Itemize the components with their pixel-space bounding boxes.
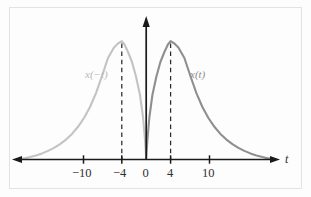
tick-label-pos10: 10 xyxy=(202,167,215,180)
y-axis-arrow-up-icon xyxy=(143,16,150,27)
figure-container: −10 −4 0 4 10 t x(−t) x(t) xyxy=(0,0,311,197)
tick-label-neg10: −10 xyxy=(72,167,92,180)
curve-x-neg-t xyxy=(18,41,146,159)
curve-label-x-neg-t: x(−t) xyxy=(85,69,108,80)
curve-label-x-t: x(t) xyxy=(190,69,205,80)
tick-label-zero: 0 xyxy=(143,167,149,180)
tick-label-pos4: 4 xyxy=(167,167,173,180)
tick-label-neg4: −4 xyxy=(113,167,126,180)
x-axis-arrow-right-icon xyxy=(270,156,280,163)
curve-x-t xyxy=(146,41,274,159)
x-axis-arrow-left-icon xyxy=(12,156,22,163)
x-axis-label: t xyxy=(285,153,288,165)
plot-svg xyxy=(0,0,311,197)
